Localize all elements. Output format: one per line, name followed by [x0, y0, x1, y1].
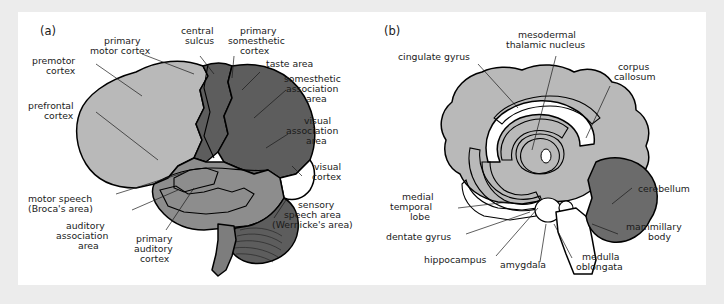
- svg-text:cortex: cortex: [44, 110, 74, 121]
- svg-text:body: body: [648, 231, 671, 242]
- panel-a: (a): [18, 12, 370, 285]
- svg-text:cingulate gyrus: cingulate gyrus: [398, 51, 470, 62]
- region-brainstem: [212, 224, 236, 276]
- thalamic-nucleus-lumen: [541, 149, 551, 163]
- svg-text:taste area: taste area: [266, 58, 313, 69]
- svg-text:cortex: cortex: [140, 253, 170, 264]
- label-auditory-association-area: auditory association area: [56, 220, 108, 251]
- svg-text:dentate gyrus: dentate gyrus: [386, 231, 451, 242]
- svg-text:(Wernicke's area): (Wernicke's area): [272, 219, 353, 230]
- svg-text:area: area: [306, 135, 327, 146]
- label-cerebellum: cerebellum: [638, 183, 690, 194]
- label-mesodermal-thalamic-nucleus: mesodermal thalamic nucleus: [506, 29, 585, 50]
- label-mammillary-body: mammillary body: [626, 221, 682, 242]
- label-visual-cortex: visual cortex: [312, 161, 342, 182]
- svg-text:amygdala: amygdala: [500, 259, 546, 270]
- label-hippocampus: hippocampus: [424, 254, 487, 265]
- svg-text:cortex: cortex: [240, 45, 270, 56]
- label-primary-auditory-cortex: primary auditory cortex: [134, 233, 173, 264]
- label-corpus-callosum: corpus callosum: [614, 61, 655, 82]
- svg-text:hippocampus: hippocampus: [424, 254, 487, 265]
- svg-text:lobe: lobe: [410, 211, 430, 222]
- svg-text:sulcus: sulcus: [185, 35, 214, 46]
- figure-panel-container: (a): [18, 12, 706, 285]
- svg-text:cortex: cortex: [46, 65, 76, 76]
- svg-text:area: area: [306, 93, 327, 104]
- svg-text:callosum: callosum: [614, 71, 655, 82]
- svg-text:cerebellum: cerebellum: [638, 183, 690, 194]
- svg-text:area: area: [78, 240, 99, 251]
- label-central-sulcus: central sulcus: [181, 25, 214, 46]
- label-primary-motor-cortex: primary motor cortex: [90, 35, 151, 56]
- svg-text:cortex: cortex: [312, 171, 342, 182]
- label-cingulate-gyrus: cingulate gyrus: [398, 51, 470, 62]
- label-premotor-cortex: premotor cortex: [32, 55, 76, 76]
- label-medial-temporal-lobe: medial temporal lobe: [390, 191, 434, 222]
- panel-b-brain-diagram: cingulate gyrus mesodermal thalamic nucl…: [370, 12, 706, 285]
- label-medulla-oblongata: medulla oblongata: [576, 251, 623, 272]
- svg-text:motor cortex: motor cortex: [90, 45, 151, 56]
- panel-a-brain-diagram: premotor cortex prefrontal cortex primar…: [18, 12, 370, 285]
- label-amygdala: amygdala: [500, 259, 546, 270]
- svg-text:oblongata: oblongata: [576, 261, 623, 272]
- label-prefrontal-cortex: prefrontal cortex: [28, 100, 74, 121]
- panel-b: (b): [370, 12, 706, 285]
- svg-text:thalamic nucleus: thalamic nucleus: [506, 39, 585, 50]
- label-primary-somesthetic-cortex: primary somesthetic cortex: [228, 25, 285, 56]
- label-dentate-gyrus: dentate gyrus: [386, 231, 451, 242]
- label-motor-speech-area: motor speech (Broca's area): [28, 193, 93, 214]
- svg-text:(Broca's area): (Broca's area): [28, 203, 93, 214]
- label-taste-area: taste area: [266, 58, 313, 69]
